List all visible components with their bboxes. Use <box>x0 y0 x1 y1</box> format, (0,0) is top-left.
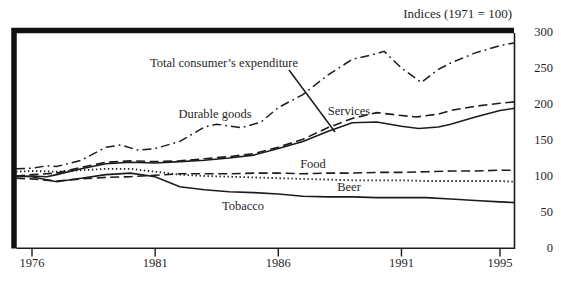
x-axis-label-1995: 1995 <box>487 256 512 271</box>
series-label-food: Food <box>300 157 326 172</box>
series-label-tobacco: Tobacco <box>222 199 264 214</box>
y-axis-label-50: 50 <box>526 205 553 220</box>
x-axis-label-1981: 1981 <box>143 256 168 271</box>
x-axis-label-1986: 1986 <box>266 256 291 271</box>
y-axis-label-0: 0 <box>526 241 553 256</box>
y-axis-label-300: 300 <box>526 25 553 40</box>
y-axis-label-200: 200 <box>526 97 553 112</box>
series-label-beer: Beer <box>337 180 361 195</box>
series-label-total-consumers-expenditure: Total consumer’s expenditure <box>150 56 298 71</box>
series-line-services <box>16 102 515 176</box>
total-label-leader-line <box>289 70 335 132</box>
series-line-tobacco <box>16 173 515 203</box>
series-label-services: Services <box>328 104 370 119</box>
chart-canvas <box>0 0 561 291</box>
x-axis-label-1976: 1976 <box>20 256 45 271</box>
x-axis-label-1991: 1991 <box>389 256 414 271</box>
y-axis-label-250: 250 <box>526 61 553 76</box>
series-line-total-consumer-s-expenditure <box>16 108 515 176</box>
y-axis-label-150: 150 <box>526 133 553 148</box>
y-axis-label-100: 100 <box>526 169 553 184</box>
expenditure-indices-chart: Indices (1971 = 100) Total consumer’s ex… <box>0 0 561 291</box>
series-label-durable-goods: Durable goods <box>178 107 251 122</box>
series-line-food <box>16 170 515 181</box>
